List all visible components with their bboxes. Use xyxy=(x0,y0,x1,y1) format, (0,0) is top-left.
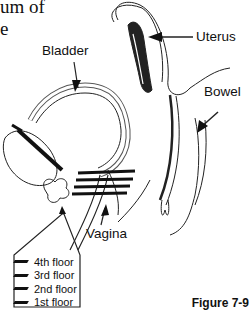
legend-item: 4th floor xyxy=(14,255,82,269)
floor-line-icon xyxy=(13,274,29,277)
floor-line-icon xyxy=(13,287,29,290)
pelvic-floor-legend: 4th floor 3rd floor 2nd floor 1st floor xyxy=(14,255,82,309)
legend-item: 1st floor xyxy=(14,296,82,310)
label-bowel: Bowel xyxy=(204,84,241,99)
floor-line-icon xyxy=(13,301,29,304)
legend-item: 3rd floor xyxy=(14,269,82,283)
label-bladder: Bladder xyxy=(42,43,89,58)
legend-item: 2nd floor xyxy=(14,282,82,296)
label-uterus: Uterus xyxy=(196,29,236,44)
figure-caption: Figure 7-9 xyxy=(192,296,249,310)
floor-line-icon xyxy=(13,260,29,263)
label-vagina: Vagina xyxy=(86,226,127,241)
